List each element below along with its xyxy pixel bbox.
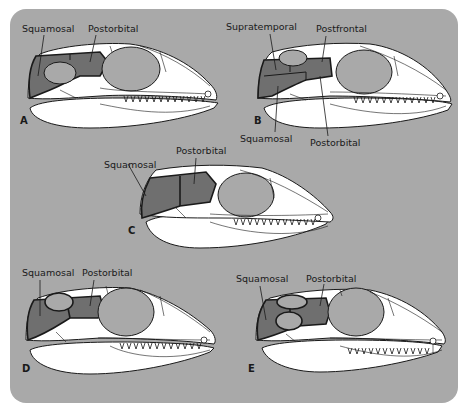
skull-c: Squamosal Postorbital C	[104, 145, 333, 248]
panel-letter-c: C	[128, 225, 135, 236]
label-squamosal-a: Squamosal	[22, 23, 74, 34]
skull-e: Squamosal Postorbital E	[236, 273, 445, 374]
label-squamosal-c: Squamosal	[104, 159, 156, 170]
panel-letter-e: E	[248, 363, 255, 374]
label-postorbital-a: Postorbital	[88, 23, 138, 34]
panel-letter-a: A	[20, 115, 28, 126]
skull-a: Squamosal Postorbital A	[20, 23, 218, 128]
label-supratemporal-b: Supratemporal	[226, 21, 297, 32]
label-postorbital-b: Postorbital	[310, 137, 360, 148]
panel-letter-d: D	[22, 363, 30, 374]
label-squamosal-e: Squamosal	[236, 273, 288, 284]
label-squamosal-d: Squamosal	[22, 267, 74, 278]
label-postorbital-d: Postorbital	[82, 267, 132, 278]
skull-b: Supratemporal Postfrontal Squamosal Post…	[226, 21, 452, 148]
label-postorbital-c: Postorbital	[176, 145, 226, 156]
skull-d: Squamosal Postorbital D	[22, 267, 215, 374]
label-postfrontal-b: Postfrontal	[316, 23, 367, 34]
label-postorbital-e: Postorbital	[306, 273, 356, 284]
label-squamosal-b: Squamosal	[240, 133, 292, 144]
skull-diagram: Squamosal Postorbital A Supratemporal Po…	[0, 0, 468, 411]
panel-letter-b: B	[254, 115, 262, 126]
